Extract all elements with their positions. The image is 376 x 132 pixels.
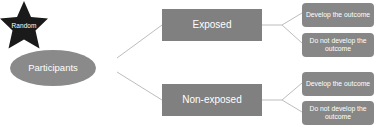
diagram-canvas: Participants Random Exposed Non-exposed … [0, 0, 376, 132]
connector-exposed-to-develop [282, 13, 302, 25]
node-non-exposed[interactable]: Non-exposed [162, 84, 262, 116]
connector-exposed-to-no-develop [282, 25, 302, 43]
node-non-exposed-label: Non-exposed [182, 94, 241, 105]
node-participants[interactable]: Participants [10, 50, 96, 86]
outcome-exposed-develop[interactable]: Develop the outcome [302, 3, 374, 27]
node-participants-label: Participants [28, 63, 78, 74]
connector-non-exposed-to-no-develop [282, 100, 302, 112]
outcome-label: Develop the outcome [306, 80, 370, 88]
outcome-label: Do not develop the outcome [304, 37, 372, 52]
outcome-non-exposed-no-develop[interactable]: Do not develop the outcome [302, 101, 374, 125]
node-random-label: Random [0, 0, 48, 50]
connector-random-to-non-exposed [117, 72, 162, 100]
outcome-label: Develop the outcome [306, 11, 370, 19]
connector-non-exposed-to-develop [282, 83, 302, 100]
outcome-exposed-no-develop[interactable]: Do not develop the outcome [302, 33, 374, 57]
outcome-label: Do not develop the outcome [304, 105, 372, 120]
outcome-non-exposed-develop[interactable]: Develop the outcome [302, 72, 374, 96]
node-random[interactable]: Random [0, 0, 48, 50]
node-exposed[interactable]: Exposed [162, 9, 262, 41]
connector-random-to-exposed [117, 25, 162, 58]
node-exposed-label: Exposed [193, 19, 232, 30]
